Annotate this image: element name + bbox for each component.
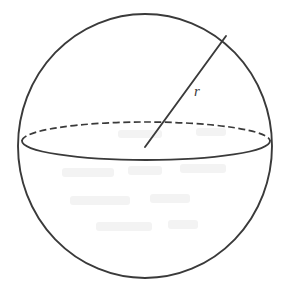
scan-ghost-artifacts bbox=[62, 128, 226, 231]
sphere-diagram-canvas bbox=[0, 0, 287, 294]
radius-label: r bbox=[194, 84, 200, 99]
equator-front-arc-solid bbox=[22, 141, 270, 160]
sphere-figure: r bbox=[0, 0, 287, 294]
